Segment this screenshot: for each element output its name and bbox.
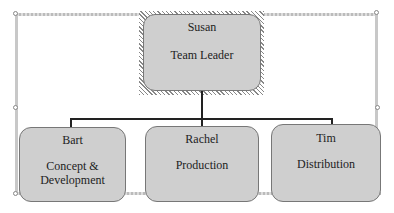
diagram-frame-left (15, 13, 18, 195)
node-name: Bart (20, 133, 125, 147)
node-bart[interactable]: Bart Concept & Development (19, 127, 126, 202)
node-role: Team Leader (144, 48, 260, 62)
connector-root-down (201, 91, 203, 128)
resize-handle-tl[interactable] (13, 11, 18, 16)
resize-handle-bl[interactable] (13, 191, 18, 196)
node-role-line1: Concept & (20, 159, 125, 173)
resize-handle-tr[interactable] (374, 10, 379, 15)
node-name: Tim (272, 131, 380, 145)
node-name: Susan (144, 20, 260, 34)
node-susan[interactable]: Susan Team Leader (143, 14, 261, 91)
resize-handle-ml[interactable] (13, 105, 18, 110)
resize-handle-mr[interactable] (375, 105, 380, 110)
node-rachel[interactable]: Rachel Production (145, 126, 259, 202)
node-tim[interactable]: Tim Distribution (271, 124, 381, 202)
org-chart-canvas[interactable]: Susan Team Leader Bart Concept & Develop… (0, 0, 394, 213)
node-role-line2: Development (20, 173, 125, 187)
node-role: Production (146, 158, 258, 172)
connector-horizontal (70, 118, 333, 120)
node-name: Rachel (146, 132, 258, 146)
node-role: Distribution (272, 157, 380, 171)
